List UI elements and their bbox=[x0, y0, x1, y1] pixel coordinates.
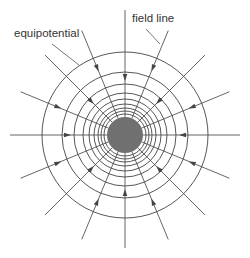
field-line bbox=[21, 142, 109, 178]
equipotential-label: equipotential bbox=[14, 27, 79, 39]
field-line bbox=[142, 92, 230, 128]
field-arrow-icon bbox=[94, 199, 99, 206]
field-arrow-icon bbox=[189, 104, 196, 109]
field-line bbox=[132, 31, 168, 119]
field-line bbox=[21, 92, 109, 128]
field-line bbox=[82, 152, 118, 240]
field-diagram: equipotential field line bbox=[0, 0, 250, 258]
field-line bbox=[82, 31, 118, 119]
field-arrow-icon bbox=[179, 133, 186, 138]
field-arrow-icon bbox=[54, 104, 61, 109]
field-arrow-icon bbox=[151, 199, 156, 206]
field-arrow-icon bbox=[189, 161, 196, 166]
field-line bbox=[142, 142, 230, 178]
field-arrow-icon bbox=[64, 133, 71, 138]
field-line bbox=[138, 148, 205, 215]
field-line bbox=[132, 152, 168, 240]
field-arrow-icon bbox=[123, 74, 128, 81]
field-line bbox=[45, 148, 112, 215]
equipotential-leader-line bbox=[52, 44, 79, 65]
field-line bbox=[138, 55, 205, 122]
field-line-label: field line bbox=[132, 12, 174, 24]
field-arrow-icon bbox=[151, 64, 156, 71]
field-line-leader-line bbox=[146, 29, 160, 44]
central-charge bbox=[107, 117, 143, 153]
field-arrow-icon bbox=[54, 161, 61, 166]
field-arrow-icon bbox=[123, 189, 128, 196]
field-arrow-icon bbox=[94, 64, 99, 71]
